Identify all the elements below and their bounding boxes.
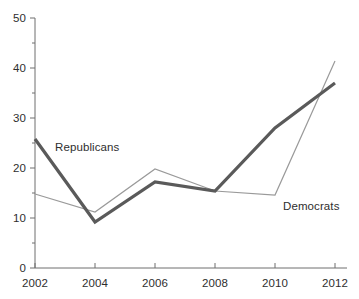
series-label-republicans: Republicans: [55, 141, 119, 153]
y-axis-tick-label: 40: [0, 62, 26, 74]
y-axis-tick-label: 50: [0, 12, 26, 24]
line-chart: 01020304050 200220042006200820102012 Rep…: [0, 0, 359, 299]
y-axis-tick-label: 0: [0, 262, 26, 274]
y-axis-tick-label: 20: [0, 162, 26, 174]
x-axis-tick-label: 2006: [142, 277, 168, 289]
x-axis-tick-label: 2004: [82, 277, 108, 289]
x-axis-tick-label: 2010: [262, 277, 288, 289]
series-label-democrats: Democrats: [283, 200, 340, 212]
x-axis-ticks: [35, 263, 335, 268]
x-axis-tick-label: 2002: [22, 277, 48, 289]
y-axis-ticks: [30, 18, 35, 268]
y-axis-tick-label: 10: [0, 212, 26, 224]
chart-plot-area: [0, 0, 359, 299]
x-axis-tick-label: 2012: [322, 277, 348, 289]
y-axis-tick-label: 30: [0, 112, 26, 124]
x-axis-tick-label: 2008: [202, 277, 228, 289]
series-line-democrats: [35, 61, 335, 212]
